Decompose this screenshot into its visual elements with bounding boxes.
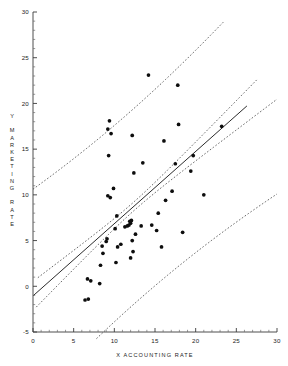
y-axis-title-char: R xyxy=(10,142,14,148)
x-tick-label: 25 xyxy=(233,337,241,344)
data-point xyxy=(134,232,138,236)
data-point xyxy=(173,162,177,166)
y-tick-label: 10 xyxy=(22,191,30,198)
data-point xyxy=(156,211,160,215)
data-point xyxy=(101,252,105,256)
y-axis-title-char: R xyxy=(10,199,14,205)
data-point xyxy=(98,282,102,286)
data-point xyxy=(112,187,116,191)
data-point xyxy=(160,245,164,249)
y-tick-label: 20 xyxy=(22,100,30,107)
y-axis-title-char: M xyxy=(10,127,15,133)
data-point xyxy=(155,229,159,233)
data-point xyxy=(130,219,134,223)
data-point xyxy=(113,227,117,231)
data-point xyxy=(129,256,133,260)
y-tick-label: 15 xyxy=(22,145,30,152)
axis-labels: 051015202530-5051015202530X ACCOUNTING R… xyxy=(10,8,281,358)
data-point xyxy=(131,250,135,254)
plot-canvas: 051015202530-5051015202530X ACCOUNTING R… xyxy=(0,0,288,366)
data-point xyxy=(164,198,168,202)
data-point xyxy=(191,154,195,158)
y-axis-title-char: A xyxy=(10,135,14,141)
data-point xyxy=(170,189,174,193)
x-axis-title: X ACCOUNTING RATE xyxy=(116,352,193,358)
data-point xyxy=(108,119,112,123)
x-tick-label: 15 xyxy=(151,337,159,344)
y-axis-title-char: T xyxy=(10,163,14,169)
data-point xyxy=(100,244,104,248)
regression-fit-line xyxy=(33,106,247,296)
data-point xyxy=(119,242,123,246)
data-point xyxy=(108,196,112,200)
data-point xyxy=(132,171,136,175)
confidence-band-lower xyxy=(36,99,277,307)
data-point xyxy=(86,277,90,281)
data-point xyxy=(83,298,87,302)
data-point xyxy=(150,223,154,227)
y-tick-label: 5 xyxy=(25,237,29,244)
x-tick-label: 0 xyxy=(31,337,35,344)
confidence-band-upper xyxy=(38,80,257,278)
data-point xyxy=(116,245,120,249)
data-point xyxy=(106,127,110,131)
y-axis-title-char: G xyxy=(10,185,14,191)
regression-bands xyxy=(33,21,277,338)
y-axis-title-char: K xyxy=(10,149,14,155)
y-axis-title-char: N xyxy=(10,178,14,184)
x-tick-label: 30 xyxy=(273,337,281,344)
prediction-band-upper xyxy=(33,21,224,189)
data-point xyxy=(162,139,166,143)
data-points xyxy=(83,73,223,302)
data-point xyxy=(202,193,206,197)
data-point xyxy=(130,239,134,243)
x-tick-label: 5 xyxy=(72,337,76,344)
data-point xyxy=(105,237,109,241)
data-point xyxy=(86,297,90,301)
y-tick-label: -5 xyxy=(23,328,29,335)
x-tick-label: 10 xyxy=(111,337,119,344)
data-point xyxy=(176,83,180,87)
data-point xyxy=(181,230,185,234)
data-point xyxy=(89,279,93,283)
y-axis-title-char: E xyxy=(10,221,14,227)
data-point xyxy=(99,263,103,267)
x-tick-label: 20 xyxy=(192,337,200,344)
data-point xyxy=(115,214,119,218)
y-tick-label: 30 xyxy=(22,8,30,15)
y-tick-label: 25 xyxy=(22,54,30,61)
fit-line xyxy=(33,106,247,296)
y-axis-title-char: E xyxy=(10,156,14,162)
data-point xyxy=(220,124,224,128)
data-point xyxy=(189,169,193,173)
data-point xyxy=(130,134,134,138)
scatter-plot-figure: 051015202530-5051015202530X ACCOUNTING R… xyxy=(0,0,288,366)
data-point xyxy=(141,161,145,165)
data-point xyxy=(109,132,113,136)
data-point xyxy=(107,154,111,158)
data-point xyxy=(147,73,151,77)
y-axis-title-char: T xyxy=(10,214,14,220)
data-point xyxy=(177,123,181,127)
data-point xyxy=(114,261,118,265)
y-axis-title-char: Y xyxy=(10,113,14,119)
y-axis-title-char: I xyxy=(11,171,13,177)
y-axis-title-char: A xyxy=(10,207,14,213)
data-point xyxy=(139,224,143,228)
y-tick-label: 0 xyxy=(25,283,29,290)
axes xyxy=(33,12,277,332)
